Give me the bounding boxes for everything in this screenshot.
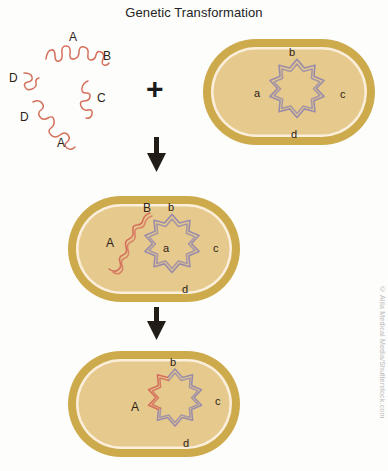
recombinant-gene-label-c: c — [215, 396, 221, 407]
dna-fragment-c — [80, 81, 92, 118]
uptake-gene-label-a: a — [163, 243, 169, 254]
arrow-down-1 — [147, 137, 166, 172]
dna-fragment-d-a — [33, 101, 75, 150]
recipient-gene-label-a: a — [254, 88, 260, 99]
page-title: Genetic Transformation — [0, 5, 388, 20]
recipient-gene-label-c: c — [340, 89, 346, 100]
uptake-gene-label-c: c — [213, 243, 219, 254]
cytoplasm — [79, 362, 230, 447]
donor-label-c: C — [97, 92, 106, 104]
arrow-down-2 — [147, 307, 166, 340]
dna-fragment-a-b — [46, 46, 109, 65]
copyright-credit: © Alila Medical Media/Shutterstock.com — [379, 286, 386, 418]
diagram-canvas — [0, 0, 388, 471]
uptake-gene-label-d: d — [182, 284, 188, 295]
recipient-gene-label-b: b — [289, 47, 295, 58]
donor-label-a-bottom: A — [57, 137, 65, 149]
recipient-gene-label-d: d — [291, 129, 297, 140]
donor-label-b: B — [103, 50, 111, 62]
uptake-gene-label-b: b — [168, 202, 174, 213]
donor-label-a-top: A — [69, 31, 77, 43]
dna-fragment-d-left — [24, 73, 39, 90]
donor-label-d-left: D — [9, 72, 18, 84]
uptake-donor-label-b: B — [143, 202, 151, 214]
recombinant-donor-label-a: A — [131, 401, 139, 413]
cytoplasm — [79, 207, 230, 292]
recombinant-gene-label-b: b — [170, 357, 176, 368]
uptake-donor-label-a: A — [106, 237, 114, 249]
plus-operator: + — [146, 74, 164, 104]
donor-label-d-lower: D — [20, 111, 29, 123]
recombinant-gene-label-d: d — [183, 438, 189, 449]
